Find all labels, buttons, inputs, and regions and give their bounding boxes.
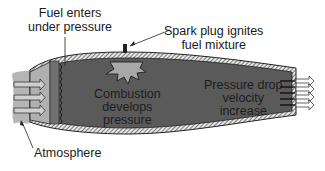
spark-label-line1: Spark plug ignites [164,24,263,38]
exhaust-arrows-icon [296,76,314,110]
spark-plug-icon [123,44,127,53]
spark-label-line2: fuel mixture [164,38,263,52]
combustion-label-line3: pressure [94,114,161,127]
spark-label: Spark plug ignites fuel mixture [164,24,263,52]
exit-label-line3: increase [204,105,283,118]
fuel-label: Fuel enters under pressure [28,6,112,34]
inlet-arrows-icon [14,79,45,116]
combustion-label: Combustion develops pressure [94,88,161,127]
valve-band [50,61,59,124]
fuel-label-line1: Fuel enters [28,6,112,20]
atmosphere-label: Atmosphere [34,146,101,160]
exit-label: Pressure drop velocity increase [204,79,283,118]
fuel-label-line2: under pressure [28,20,112,34]
